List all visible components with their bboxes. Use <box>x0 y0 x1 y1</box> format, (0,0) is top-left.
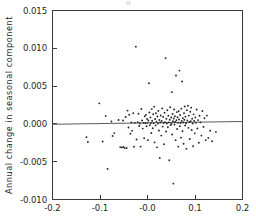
data-point <box>156 146 158 148</box>
data-point <box>205 139 207 141</box>
data-point <box>185 116 187 118</box>
data-point <box>86 136 88 138</box>
data-point <box>186 148 188 150</box>
data-point <box>173 118 175 120</box>
data-point <box>171 123 173 125</box>
data-point <box>172 113 174 115</box>
data-point <box>151 120 153 122</box>
data-point <box>200 121 202 123</box>
data-point <box>164 121 166 123</box>
data-point <box>195 122 197 124</box>
data-point <box>151 108 153 110</box>
data-point <box>196 109 198 111</box>
data-point <box>207 137 209 139</box>
data-point <box>142 128 144 130</box>
data-point <box>157 123 159 125</box>
data-point <box>144 122 146 124</box>
data-point <box>147 122 149 124</box>
data-point <box>199 115 201 117</box>
data-point <box>160 114 162 116</box>
data-point <box>167 126 169 128</box>
data-point <box>87 141 89 143</box>
x-tick-label: 0.1 <box>188 203 201 213</box>
plot-frame <box>53 11 243 200</box>
data-point <box>162 116 164 118</box>
data-point <box>187 105 189 107</box>
data-point <box>176 111 178 113</box>
data-point <box>201 110 203 112</box>
data-point <box>165 118 167 120</box>
data-point <box>128 114 130 116</box>
data-point <box>180 108 182 110</box>
data-point <box>155 124 157 126</box>
data-point <box>192 145 194 147</box>
data-point <box>138 125 140 127</box>
data-point <box>147 139 149 141</box>
data-point <box>183 143 185 145</box>
data-point <box>168 159 170 161</box>
data-point <box>141 120 143 122</box>
data-point <box>193 120 195 122</box>
data-point <box>166 109 168 111</box>
data-point <box>203 126 205 128</box>
data-point <box>167 115 169 117</box>
data-point <box>148 82 150 84</box>
data-point <box>152 127 154 129</box>
data-point <box>171 134 173 136</box>
data-point <box>143 122 145 124</box>
data-point <box>165 131 167 133</box>
y-axis-title: Annual change in seasonal component <box>4 16 14 194</box>
data-point <box>183 119 185 121</box>
data-point <box>170 117 172 119</box>
data-point <box>178 110 180 112</box>
data-point <box>124 147 126 149</box>
data-point <box>129 133 131 135</box>
data-point <box>145 114 147 116</box>
data-point <box>161 120 163 122</box>
data-point <box>190 120 192 122</box>
data-point <box>133 146 135 148</box>
data-point <box>165 57 167 59</box>
data-point <box>173 109 175 111</box>
data-point <box>171 91 173 93</box>
data-point <box>126 147 128 149</box>
data-point <box>174 115 176 117</box>
data-point <box>184 125 186 127</box>
data-point <box>180 137 182 139</box>
x-tick-label: -0.2 <box>44 203 60 213</box>
data-point <box>150 132 152 134</box>
y-tick-label: 0.015 <box>23 6 47 16</box>
data-point <box>172 183 174 185</box>
data-point <box>146 125 148 127</box>
data-point <box>198 142 200 144</box>
data-point <box>181 120 183 122</box>
data-point <box>149 116 151 118</box>
data-point <box>197 119 199 121</box>
data-point <box>136 139 138 141</box>
data-point <box>102 140 104 142</box>
data-point <box>154 141 156 143</box>
scatter-series <box>86 46 217 185</box>
data-point <box>98 102 100 104</box>
data-point <box>183 112 185 114</box>
data-point <box>139 123 141 125</box>
data-point <box>153 122 155 124</box>
data-point <box>194 132 196 134</box>
data-point <box>168 121 170 123</box>
data-point <box>177 146 179 148</box>
data-point <box>160 135 162 137</box>
data-point <box>132 112 134 114</box>
data-point <box>146 118 148 120</box>
data-point <box>164 112 166 114</box>
data-point <box>179 125 181 127</box>
data-point <box>135 46 137 48</box>
data-point <box>190 107 192 109</box>
data-point <box>172 120 174 122</box>
data-point <box>137 121 139 123</box>
data-point <box>177 122 179 124</box>
data-point <box>131 130 133 132</box>
data-point <box>110 121 112 123</box>
data-point <box>175 139 177 141</box>
data-point <box>186 120 188 122</box>
data-point <box>186 109 188 111</box>
